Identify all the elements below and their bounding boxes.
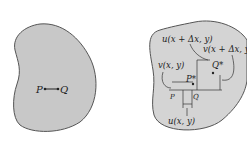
label-q-star: Q* <box>212 60 224 70</box>
label-v-x-dx: v(x + Δx, y) <box>203 44 247 54</box>
left-body-shape <box>14 24 96 132</box>
label-u-x-dx: u(x + Δx, y) <box>162 34 213 44</box>
label-p-star: P* <box>185 74 197 84</box>
point-p-dot <box>44 88 47 91</box>
point-p-star-dot <box>192 83 194 85</box>
label-u-xy: u(x, y) <box>168 116 195 126</box>
label-p-original: P <box>169 93 175 101</box>
label-q: Q <box>60 84 68 95</box>
point-q-star-dot <box>212 72 214 74</box>
label-q-original: Q <box>193 93 199 101</box>
point-q-dot <box>57 88 60 91</box>
deformation-diagram: P Q u(x + Δx, y) v(x + Δx, y) v(x, y) u(… <box>0 0 247 151</box>
label-v-xy: v(x, y) <box>158 60 184 70</box>
label-p: P <box>35 84 43 95</box>
